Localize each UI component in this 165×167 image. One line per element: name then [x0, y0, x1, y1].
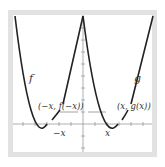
label-g: g [134, 72, 141, 85]
label-point-x: (x, g(x)) [117, 101, 151, 111]
label-f: f [28, 72, 35, 85]
curve-f [15, 16, 83, 128]
label-x: x [105, 128, 110, 138]
label-neg-x: −x [53, 128, 66, 138]
graph-canvas: f g (−x, f(−x)) (x, g(x)) −x x [0, 0, 165, 167]
axes [13, 15, 152, 152]
curve-g [83, 16, 153, 128]
label-point-neg-x: (−x, f(−x)) [38, 101, 84, 111]
